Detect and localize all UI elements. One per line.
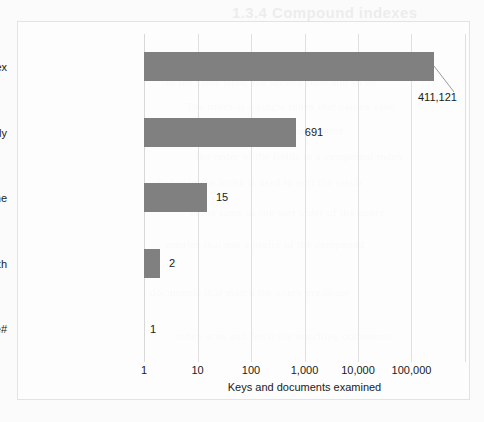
bar-as-above-firstname[interactable] (144, 183, 207, 212)
x-tick-10: 10 (191, 365, 203, 376)
category-label-as-above-firstname: As above + FirstName (0, 193, 7, 204)
x-tick-10000: 10,000 (341, 365, 375, 376)
bar-row (144, 34, 465, 100)
gridline-1000000 (465, 34, 466, 362)
plot-area: 691 15 2 1 (144, 34, 465, 362)
category-label-lastname-only: LastName only (0, 128, 7, 139)
category-label-as-above-phone: As above + phone# (0, 324, 7, 335)
category-label-as-above-dateofbirth: As Above + dateOfBirth (0, 259, 7, 270)
bar-no-index[interactable] (144, 52, 434, 81)
bar-value-label-as-above-firstname: 15 (216, 192, 228, 203)
x-tick-100000: 100,000 (392, 365, 432, 376)
x-axis-ticks: 1 10 100 1,000 10,000 100,000 (144, 365, 465, 381)
bar-as-above-dateofbirth[interactable] (144, 249, 160, 278)
bar-row: 2 (144, 231, 465, 297)
chart-frame: No index LastName only As above + FirstN… (17, 21, 470, 400)
x-tick-100: 100 (242, 365, 260, 376)
x-axis-title: Keys and documents examined (144, 382, 465, 393)
bar-value-label-as-above-phone: 1 (150, 324, 156, 335)
bar-value-label-as-above-dateofbirth: 2 (169, 258, 175, 269)
category-label-no-index: No index (0, 62, 7, 73)
bar-row: 15 (144, 165, 465, 231)
bar-row: 1 (144, 296, 465, 362)
x-tick-1: 1 (141, 365, 147, 376)
bar-row: 691 (144, 100, 465, 166)
ghost-title: 1.3.4 Compound indexes (232, 4, 418, 21)
bar-value-label-lastname-only: 691 (305, 127, 323, 138)
bar-value-label-no-index: 411,121 (418, 91, 457, 103)
x-tick-1000: 1,000 (291, 365, 319, 376)
bar-lastname-only[interactable] (144, 118, 296, 147)
